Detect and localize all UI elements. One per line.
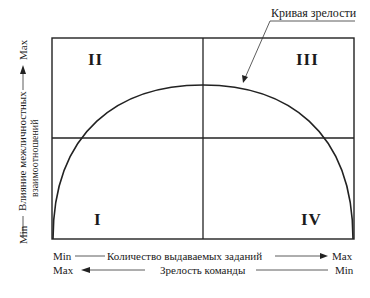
quadrant-label-i: I (94, 210, 102, 230)
x-axis1-label: Количество выдаваемых заданий (107, 250, 262, 262)
x-axis1-arrow-right-icon (320, 253, 328, 259)
quadrant-label-ii: II (88, 50, 103, 70)
x-axis2-max: Max (53, 264, 73, 276)
y-axis-label-line2: взаимоотношений (29, 119, 40, 197)
y-axis-label-line1: Влияние межличностных (16, 91, 28, 211)
x-axis2-arrow-left-icon (81, 267, 90, 273)
y-axis-min: Min (17, 226, 29, 244)
callout-label: Кривая зрелости (271, 7, 356, 19)
x-axis2-min: Min (335, 264, 353, 276)
x-axis1-min: Min (53, 250, 71, 262)
y-axis-max: Max (17, 40, 29, 60)
quadrant-label-iv: IV (301, 210, 322, 230)
quadrant-label-iii: III (296, 50, 319, 70)
x-axis1-max: Max (332, 250, 352, 262)
callout-arrowhead-icon (242, 75, 248, 83)
y-axis-arrow-up-icon (20, 65, 26, 74)
callout-leader-line (245, 21, 270, 78)
x-axis2-label: Зрелость команды (160, 264, 245, 276)
